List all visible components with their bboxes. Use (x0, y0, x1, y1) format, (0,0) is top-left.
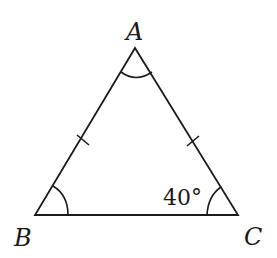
angle-arc-c (207, 187, 221, 215)
vertex-label-a: A (124, 18, 143, 46)
vertex-label-b: B (13, 224, 32, 252)
triangle-diagram: A B C 40° (0, 0, 277, 258)
angle-c-label: 40° (163, 185, 202, 210)
triangle-abc (35, 48, 238, 215)
angle-arc-b (53, 186, 68, 215)
tick-mark-ac (187, 136, 199, 146)
vertex-label-c: C (244, 223, 262, 251)
angle-arc-a (121, 72, 152, 78)
